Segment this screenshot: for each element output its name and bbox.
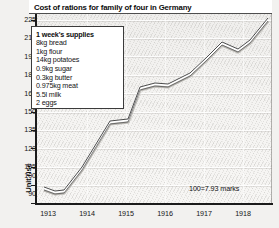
gridline-135 [36,130,272,131]
y-tick-label-150: 150 [4,108,36,115]
x-tick-label-1913: 1913 [31,210,65,218]
gridline-120 [36,148,272,149]
gridline-225 [36,20,272,21]
chart-container: 225 210 195 180 165 150 135 120 105 100 … [0,0,279,228]
y-axis-title: Unit rise [24,152,33,204]
x-tick-label-1917: 1917 [187,210,221,218]
y-tick-label-225: 225 [4,16,36,23]
legend-item: 2 eggs [36,99,123,108]
x-tick-label-1918: 1918 [226,210,260,218]
chart-title: Cost of rations for family of four in Ge… [34,3,191,12]
legend-box: 1 week's supplies 8kg bread 1kg flour 14… [31,26,124,109]
vgridline-1918 [243,14,244,204]
vgridline-1915 [126,14,127,204]
gridline-150 [36,112,272,113]
chart-title-band: Cost of rations for family of four in Ge… [29,0,272,14]
vgridline-1916 [165,14,166,204]
x-tick-label-1914: 1914 [70,210,104,218]
plot-right-edge [271,14,272,204]
chart-annotation: 100=7.93 marks [189,184,239,193]
y-tick-label-120: 120 [4,145,36,152]
vgridline-1917 [204,14,205,204]
x-axis-line [35,203,273,205]
y-tick-label-135: 135 [4,126,36,133]
x-tick-label-1916: 1916 [148,210,182,218]
gridline-105 [36,167,272,168]
x-tick-label-1915: 1915 [109,210,143,218]
